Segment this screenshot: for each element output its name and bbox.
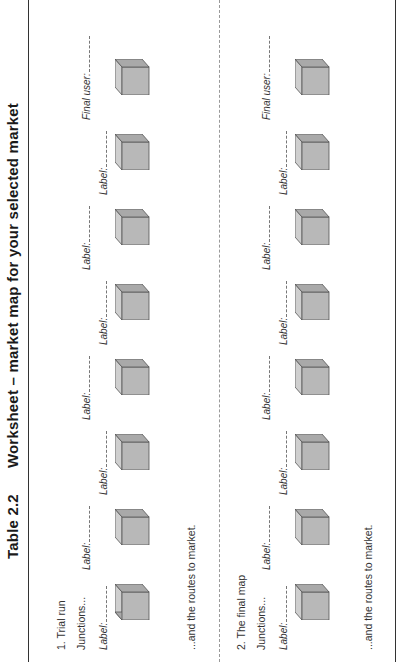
blank-line[interactable] bbox=[277, 131, 287, 167]
blank-line[interactable] bbox=[260, 506, 270, 542]
blank-line[interactable] bbox=[97, 431, 107, 467]
blank-line[interactable] bbox=[80, 506, 90, 542]
cube-icon bbox=[295, 209, 331, 245]
blank-line[interactable] bbox=[260, 36, 270, 72]
cube-icon bbox=[115, 134, 151, 170]
blank-line[interactable] bbox=[260, 356, 270, 392]
cube-icon bbox=[115, 584, 151, 620]
section-divider bbox=[219, 0, 220, 662]
blank-line[interactable] bbox=[277, 431, 287, 467]
label-field[interactable]: Label: bbox=[80, 206, 92, 270]
cube-icon bbox=[295, 59, 331, 95]
cube-icon bbox=[295, 434, 331, 470]
label-field[interactable]: Label: bbox=[260, 206, 272, 270]
blank-line[interactable] bbox=[97, 131, 107, 167]
cube-icon bbox=[115, 284, 151, 320]
routes-text: ...and the routes to market. bbox=[362, 525, 374, 650]
cube-icon bbox=[115, 509, 151, 545]
label-field[interactable]: Label: bbox=[277, 281, 289, 345]
worksheet-page: Table 2.2Worksheet – market map for your… bbox=[0, 0, 408, 662]
junctions-label: Junctions... bbox=[255, 597, 267, 650]
label-field[interactable]: Label: bbox=[277, 131, 289, 195]
label-field[interactable]: Label: bbox=[260, 506, 272, 570]
cube-icon bbox=[295, 359, 331, 395]
label-field[interactable]: Label: bbox=[260, 356, 272, 420]
blank-line[interactable] bbox=[80, 206, 90, 242]
blank-line[interactable] bbox=[260, 206, 270, 242]
label-field[interactable]: Label: bbox=[277, 431, 289, 495]
top-rule bbox=[28, 0, 29, 662]
final-user-field[interactable]: Final user: bbox=[80, 36, 92, 120]
cube-icon bbox=[295, 134, 331, 170]
label-field[interactable]: Label: bbox=[80, 506, 92, 570]
cube-icon bbox=[295, 284, 331, 320]
blank-line[interactable] bbox=[80, 356, 90, 392]
cube-icon bbox=[115, 359, 151, 395]
blank-line[interactable] bbox=[97, 281, 107, 317]
cube-icon bbox=[115, 209, 151, 245]
blank-line[interactable] bbox=[80, 36, 90, 72]
blank-line[interactable] bbox=[97, 586, 107, 622]
label-field[interactable]: Label: bbox=[97, 281, 109, 345]
cube-icon bbox=[115, 434, 151, 470]
label-field[interactable]: Label: bbox=[97, 586, 109, 650]
label-field[interactable]: Label: bbox=[80, 356, 92, 420]
cube-icon bbox=[115, 59, 151, 95]
cube-icon bbox=[295, 509, 331, 545]
page-title: Table 2.2Worksheet – market map for your… bbox=[4, 0, 21, 662]
table-number: Table 2.2 bbox=[4, 494, 21, 559]
label-field[interactable]: Label: bbox=[97, 431, 109, 495]
blank-line[interactable] bbox=[277, 586, 287, 622]
junctions-label: Junctions... bbox=[75, 597, 87, 650]
blank-line[interactable] bbox=[277, 281, 287, 317]
table-title: Worksheet – market map for your selected… bbox=[4, 103, 21, 468]
bottom-rule bbox=[395, 0, 396, 662]
section-heading: 2. The final map bbox=[235, 575, 247, 650]
section-heading: 1. Trial run bbox=[55, 600, 67, 650]
routes-text: ...and the routes to market. bbox=[185, 525, 197, 650]
label-field[interactable]: Label: bbox=[277, 586, 289, 650]
label-field[interactable]: Label: bbox=[97, 131, 109, 195]
cube-icon bbox=[295, 584, 331, 620]
final-user-field[interactable]: Final user: bbox=[260, 36, 272, 120]
